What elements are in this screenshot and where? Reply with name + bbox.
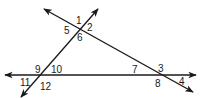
angle-label-12: 12 xyxy=(40,81,52,92)
angle-label-2: 2 xyxy=(87,22,93,33)
lines-group xyxy=(5,9,196,97)
angle-label-11: 11 xyxy=(20,77,31,88)
angle-label-8: 8 xyxy=(155,78,161,89)
angle-labels-group: 125691011127384 xyxy=(20,15,185,92)
angle-label-4: 4 xyxy=(179,76,185,87)
angle-label-5: 5 xyxy=(64,25,70,36)
angle-diagram: 125691011127384 xyxy=(0,0,201,98)
falling-transversal xyxy=(44,9,193,92)
angle-label-10: 10 xyxy=(51,64,63,75)
angle-label-3: 3 xyxy=(158,63,164,74)
angle-label-6: 6 xyxy=(77,32,83,43)
angle-label-9: 9 xyxy=(35,64,41,75)
angle-label-1: 1 xyxy=(76,15,82,26)
angle-label-7: 7 xyxy=(132,64,138,75)
